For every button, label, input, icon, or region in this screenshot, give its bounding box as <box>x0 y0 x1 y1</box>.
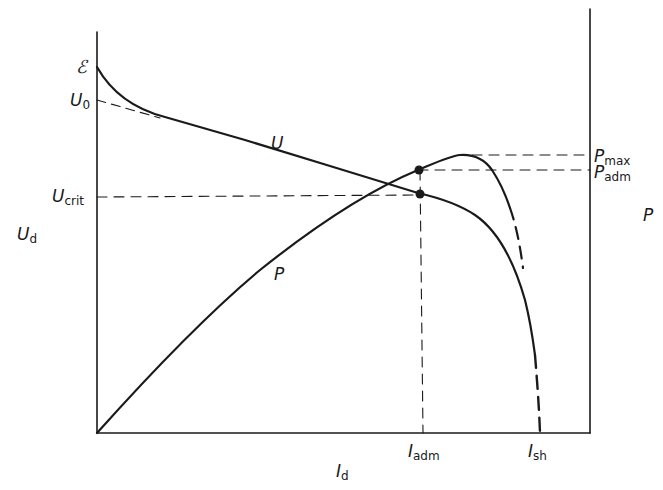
voltage-curve-label: U <box>271 135 283 152</box>
x-axis-label: Id <box>336 463 349 482</box>
iadm-label: Iadm <box>408 443 440 462</box>
iadm-dashed-line <box>420 170 423 433</box>
ish-label: Ish <box>528 443 547 462</box>
y-left-axis-label: Ud <box>17 226 37 245</box>
padm-operating-point <box>415 166 424 175</box>
padm-label: Padm <box>594 164 631 183</box>
diagram-canvas: ℰ U0 Ucrit Ud Pmax Padm P U P Iadm Ish I… <box>0 0 663 490</box>
u0-tangent-dashed <box>97 100 160 118</box>
emf-label: ℰ <box>76 58 87 76</box>
ucrit-dashed-line <box>97 195 418 197</box>
diagram-graphics <box>0 0 663 490</box>
voltage-curve-u <box>97 67 535 355</box>
ucrit-operating-point <box>416 190 425 199</box>
power-curve-p <box>97 155 510 433</box>
ucrit-label: Ucrit <box>52 188 84 207</box>
voltage-curve-u-dashed <box>535 355 540 433</box>
power-curve-label: P <box>274 266 284 283</box>
y-right-axis-label: P <box>643 207 653 224</box>
u0-label: U0 <box>70 92 90 111</box>
power-curve-p-dashed <box>510 208 523 268</box>
